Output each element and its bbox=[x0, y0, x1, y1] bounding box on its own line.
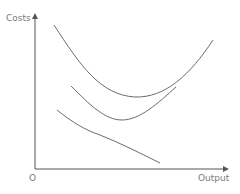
origin-label: O bbox=[29, 174, 36, 183]
x-axis-label: Output bbox=[198, 174, 229, 183]
upper-u-curve bbox=[54, 25, 213, 97]
middle-u-curve bbox=[71, 86, 176, 120]
lower-declining-curve bbox=[57, 110, 160, 163]
y-axis-label: Costs bbox=[6, 14, 31, 23]
cost-diagram bbox=[0, 0, 240, 194]
